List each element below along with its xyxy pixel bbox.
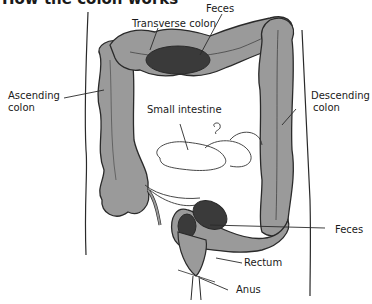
rectum — [178, 232, 206, 276]
label-ascending-colon-2: colon — [8, 102, 35, 114]
body-outline-left — [85, 12, 88, 255]
label-anus: Anus — [236, 284, 261, 296]
label-rectum: Rectum — [244, 257, 282, 269]
small-intestine — [145, 123, 262, 206]
label-descending-colon-1: Descending — [311, 90, 370, 102]
label-feces-bottom: Feces — [335, 224, 363, 236]
anus — [191, 276, 201, 300]
body-outline-right — [302, 30, 310, 296]
label-descending-colon-2: colon — [313, 102, 340, 114]
descending-colon — [259, 18, 294, 236]
feces-transverse — [146, 46, 210, 74]
label-small-intestine: Small intestine — [147, 104, 222, 116]
colon-diagram — [0, 0, 372, 304]
label-ascending-colon-1: Ascending — [8, 90, 60, 102]
label-feces-top: Feces — [206, 3, 234, 15]
label-transverse-colon: Transverse colon — [132, 18, 216, 30]
